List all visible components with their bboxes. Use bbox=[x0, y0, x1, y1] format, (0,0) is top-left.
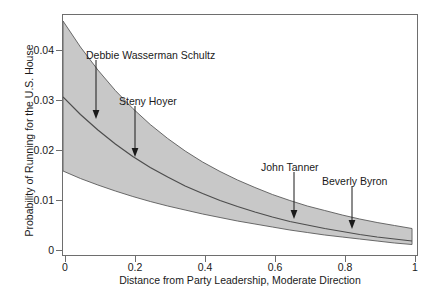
annotation-arrow-steny-hoyer bbox=[127, 106, 147, 158]
chart-figure: Probability of Running for the U.S. Hous… bbox=[0, 0, 427, 295]
x-tick-label-0.4: 0.4 bbox=[185, 262, 225, 273]
x-tick-label-0: 0 bbox=[45, 262, 85, 273]
y-tick-label-3: 0.03 bbox=[14, 95, 54, 106]
y-tick-label-1: 0.01 bbox=[14, 195, 54, 206]
y-tick-label-4: 0.04 bbox=[14, 45, 54, 56]
annotation-arrow-beverly-byron bbox=[344, 186, 364, 230]
annotation-arrow-john-tanner bbox=[286, 172, 306, 220]
x-tick-label-0.8: 0.8 bbox=[325, 262, 365, 273]
x-tick-label-0.6: 0.6 bbox=[255, 262, 295, 273]
x-tick-label-1: 1 bbox=[395, 262, 427, 273]
x-tick-label-0.2: 0.2 bbox=[115, 262, 155, 273]
y-tick-label-2: 0.02 bbox=[14, 145, 54, 156]
x-axis-label: Distance from Party Leadership, Moderate… bbox=[62, 275, 418, 286]
annotation-arrow-debbie-wasserman-schultz bbox=[88, 60, 108, 120]
y-tick-label-0: 0 bbox=[14, 245, 54, 256]
